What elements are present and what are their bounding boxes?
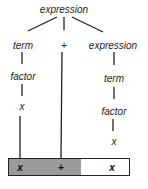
edge-root-term [28, 17, 57, 31]
node-root-expression: expression [40, 4, 88, 15]
tape-unparsed-region: x [81, 159, 129, 175]
node-x-right: x [112, 136, 117, 147]
node-x-left: x [20, 101, 25, 112]
node-plus: + [61, 40, 67, 51]
input-tape: x + x [8, 158, 130, 176]
tape-token-plus: + [58, 162, 64, 173]
tape-parsed-region: x + [9, 159, 81, 175]
node-term-right: term [104, 73, 124, 84]
node-expression-right: expression [89, 40, 137, 51]
tape-token-x-2: x [109, 162, 115, 173]
edge-root-expression [72, 17, 103, 32]
edge-plus-tape [61, 52, 62, 158]
tape-token-x-1: x [17, 162, 23, 173]
node-factor-right: factor [101, 106, 126, 117]
node-term-left: term [13, 40, 33, 51]
node-factor-left: factor [10, 71, 35, 82]
